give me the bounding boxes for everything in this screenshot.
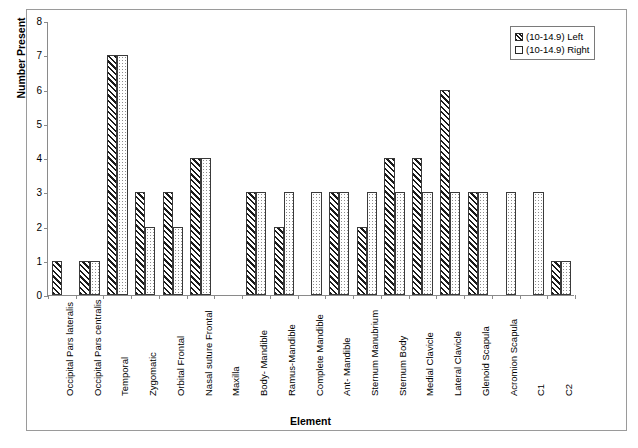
bar-right	[450, 192, 460, 295]
bar-group	[381, 22, 409, 295]
x-axis-tick-mark	[131, 295, 132, 299]
bar-right	[506, 192, 516, 295]
bar-left	[79, 261, 89, 295]
bar-left	[440, 90, 450, 296]
bar-group	[48, 22, 76, 295]
bar-right	[201, 158, 211, 295]
bar-right	[284, 192, 294, 295]
x-axis-tick-mark	[325, 295, 326, 299]
x-axis-tick-label: Glenoid Scapula	[481, 326, 491, 396]
x-axis-tick-label: Sternum Manubrium	[370, 310, 380, 396]
x-axis-tick-mark	[242, 295, 243, 299]
x-axis-tick-label: Occipital Pars lateralis	[65, 302, 75, 396]
hatch-swatch-icon	[515, 33, 523, 41]
x-axis-tick-mark	[298, 295, 299, 299]
x-axis-tick-mark	[575, 295, 576, 299]
bar-right	[533, 192, 543, 295]
bar-right	[173, 227, 183, 296]
x-axis-tick-label: Ramus-Mandible	[287, 324, 297, 396]
bar-right	[256, 192, 266, 295]
bar-left	[384, 158, 394, 295]
x-axis-tick-mark	[214, 295, 215, 299]
x-axis-tick-label: C1	[536, 384, 546, 396]
x-axis-tick-mark	[270, 295, 271, 299]
bar-right	[561, 261, 571, 295]
legend-item-label: (10-14.9) Left	[526, 32, 583, 42]
x-axis-tick-label: Sternum Body	[398, 336, 408, 396]
bar-group	[214, 22, 242, 295]
bar-group	[353, 22, 381, 295]
legend-item: (10-14.9) Right	[515, 43, 589, 56]
bar-right	[339, 192, 349, 295]
x-axis-tick-mark	[381, 295, 382, 299]
x-axis-tick-label: Body- Mandible	[259, 330, 269, 396]
bar-left	[274, 227, 284, 296]
bar-group	[187, 22, 215, 295]
x-axis-tick-mark	[547, 295, 548, 299]
y-axis-tick-label: 0	[18, 291, 42, 301]
y-axis-tick-label: 4	[18, 154, 42, 164]
bar-left	[190, 158, 200, 295]
x-axis-tick-label: Zygomatic	[148, 352, 158, 396]
x-axis-category-labels: Occipital Pars lateralisOccipital Pars c…	[47, 300, 574, 400]
x-axis-tick-label: Temporal	[120, 357, 130, 396]
x-axis-tick-mark	[187, 295, 188, 299]
y-axis-tick-label: 2	[18, 223, 42, 233]
bar-group	[547, 22, 575, 295]
bar-left	[52, 261, 62, 295]
dot-swatch-icon	[515, 46, 523, 54]
bar-group	[492, 22, 520, 295]
y-axis-tick-label: 5	[18, 120, 42, 130]
bar-left	[107, 55, 117, 295]
bar-right	[367, 192, 377, 295]
x-axis-tick-mark	[409, 295, 410, 299]
bar-group	[436, 22, 464, 295]
x-axis-tick-mark	[103, 295, 104, 299]
bar-group	[325, 22, 353, 295]
bar-right	[478, 192, 488, 295]
x-axis-tick-label: Maxilla	[231, 366, 241, 396]
bar-group	[409, 22, 437, 295]
plot-area: 012345678 Number Present	[47, 22, 574, 296]
bar-left	[357, 227, 367, 296]
y-axis-tick-label: 3	[18, 188, 42, 198]
x-axis-tick-label: Nasal suture Frontal	[204, 310, 214, 396]
x-axis-tick-label: Occipital Pars centralis	[93, 299, 103, 396]
x-axis-tick-label: Ant- Mandible	[342, 337, 352, 396]
bar-series-container	[48, 22, 574, 295]
bar-group	[520, 22, 548, 295]
bar-left	[551, 261, 561, 295]
x-axis-tick-mark	[520, 295, 521, 299]
x-axis-tick-label: Complete Mandible	[315, 314, 325, 396]
bar-group	[103, 22, 131, 295]
bar-left	[163, 192, 173, 295]
x-axis-tick-mark	[76, 295, 77, 299]
bar-left	[468, 192, 478, 295]
chart-figure: 012345678 Number Present Occipital Pars …	[0, 0, 638, 448]
legend-item: (10-14.9) Left	[515, 30, 589, 43]
x-axis-tick-mark	[436, 295, 437, 299]
bar-right	[311, 192, 321, 295]
bar-right	[90, 261, 100, 295]
bar-right	[422, 192, 432, 295]
bar-right	[145, 227, 155, 296]
x-axis-tick-label: C2	[564, 384, 574, 396]
x-axis-tick-mark	[48, 295, 49, 299]
bar-left	[329, 192, 339, 295]
x-axis-tick-mark	[464, 295, 465, 299]
x-axis-tick-label: Lateral Clavicle	[453, 331, 463, 396]
x-axis-tick-label: Acromion Scapula	[509, 319, 519, 396]
x-axis-tick-mark	[353, 295, 354, 299]
y-axis-tick-label: 1	[18, 257, 42, 267]
bar-left	[135, 192, 145, 295]
bar-group	[131, 22, 159, 295]
x-axis-tick-mark	[492, 295, 493, 299]
bar-right	[117, 55, 127, 295]
bar-group	[76, 22, 104, 295]
bar-group	[242, 22, 270, 295]
bar-left	[246, 192, 256, 295]
bar-group	[270, 22, 298, 295]
legend-item-label: (10-14.9) Right	[526, 45, 589, 55]
x-axis-title: Element	[47, 415, 574, 427]
x-axis-tick-mark	[159, 295, 160, 299]
